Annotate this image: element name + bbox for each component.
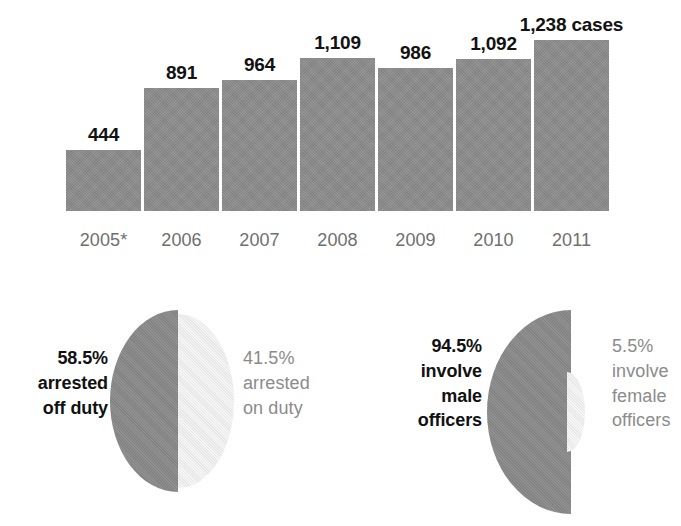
pie-slice-female: [567, 372, 585, 452]
bar-rect-2007: [222, 80, 297, 211]
bar-label-2005: 2005*: [62, 230, 145, 251]
pie-line-off-duty-2: off duty: [8, 396, 108, 421]
pie-slice-on-duty: [178, 314, 234, 488]
pie-pct-off-duty: 58.5%: [8, 346, 108, 371]
pie-slice-male: [487, 310, 571, 514]
bar-value-2006: 891: [144, 62, 219, 84]
bar-rect-2011: [534, 40, 609, 211]
pie-pct-female: 5.5%: [612, 334, 681, 359]
bar-label-2007: 2007: [218, 230, 301, 251]
bar-label-2010: 2010: [452, 230, 535, 251]
pie-line-on-duty-2: on duty: [243, 396, 338, 421]
pie-label-duty-secondary: 41.5% arrested on duty: [243, 346, 338, 420]
pie-line-male-3: officers: [362, 408, 482, 433]
bar-label-2011: 2011: [530, 230, 613, 251]
infographic-root: 444 2005* 891 2006 964 2007 1,109 2008 9…: [0, 0, 681, 526]
pie-pct-on-duty: 41.5%: [243, 346, 338, 371]
bar-label-2009: 2009: [374, 230, 457, 251]
bar-label-2006: 2006: [140, 230, 223, 251]
bar-label-2008: 2008: [296, 230, 379, 251]
bar-rect-2009: [378, 68, 453, 211]
bar-rect-2008: [300, 58, 375, 211]
bar-chart: 444 2005* 891 2006 964 2007 1,109 2008 9…: [0, 0, 681, 262]
pie-line-male-1: involve: [362, 359, 482, 384]
pie-line-female-3: officers: [612, 408, 681, 433]
pie-section: 58.5% arrested off duty 41.5% arrested o…: [0, 262, 681, 526]
bar-value-2007: 964: [222, 54, 297, 76]
pie-figure-gender: [487, 310, 597, 514]
pie-label-gender-secondary: 5.5% involve female officers: [612, 334, 681, 433]
pie-label-duty-primary: 58.5% arrested off duty: [8, 346, 108, 420]
pie-figure-duty: [110, 310, 228, 492]
bar-value-2011: 1,238 cases: [506, 14, 637, 36]
pie-slice-off-duty: [110, 310, 178, 492]
bar-rect-2006: [144, 88, 219, 211]
bar-rect-2010: [456, 59, 531, 211]
pie-line-male-2: male: [362, 384, 482, 409]
pie-label-gender-primary: 94.5% involve male officers: [362, 334, 482, 433]
bar-value-2005: 444: [66, 124, 141, 146]
bar-rect-2005: [66, 150, 141, 211]
pie-block-gender: 94.5% involve male officers 5.5% involve…: [340, 262, 681, 526]
pie-line-female-1: involve: [612, 359, 681, 384]
pie-pct-male: 94.5%: [362, 334, 482, 359]
pie-block-duty: 58.5% arrested off duty 41.5% arrested o…: [0, 262, 341, 526]
pie-line-female-2: female: [612, 384, 681, 409]
pie-line-on-duty-1: arrested: [243, 371, 338, 396]
pie-line-off-duty-1: arrested: [8, 371, 108, 396]
